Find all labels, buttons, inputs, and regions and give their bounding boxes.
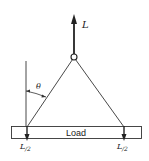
lift-ring xyxy=(71,54,77,60)
svg-text:/2: /2 xyxy=(121,145,128,152)
load-label: Load xyxy=(66,128,86,138)
svg-text:/2: /2 xyxy=(24,145,31,152)
left-reaction-label: L /2 xyxy=(19,142,31,152)
lift-force-label: L xyxy=(81,19,89,30)
right-reaction-label: L /2 xyxy=(116,142,128,152)
angle-label: θ xyxy=(36,82,41,91)
angle-arrowhead-left xyxy=(26,90,30,93)
right-rope xyxy=(76,60,125,128)
sling-diagram: L θ Load L /2 L /2 xyxy=(0,0,149,161)
angle-arrowhead-right xyxy=(42,95,47,98)
lift-arrow xyxy=(71,14,77,54)
